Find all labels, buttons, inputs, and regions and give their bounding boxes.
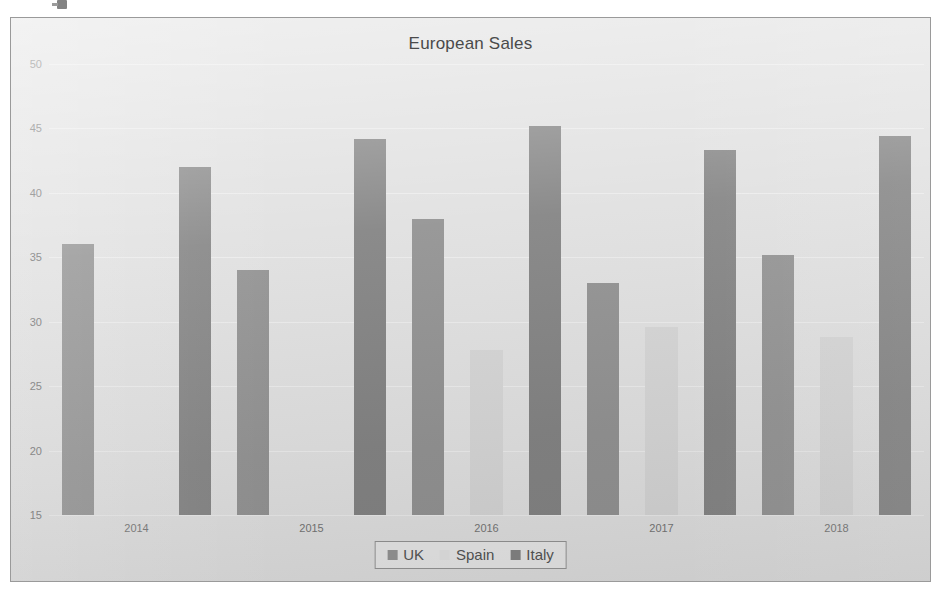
y-axis-tick-label: 35 <box>30 251 42 263</box>
chart-legend: UKSpainItaly <box>374 541 567 569</box>
legend-label: Spain <box>456 546 494 563</box>
chart-frame: European Sales 5045403530252015 20142015… <box>10 17 931 582</box>
y-axis-tick-label: 50 <box>30 58 42 70</box>
legend-item-uk[interactable]: UK <box>387 546 424 563</box>
bar-spain-2018[interactable] <box>820 337 852 515</box>
bar-cluster: 2015 <box>224 64 399 515</box>
bar-cluster: 2016 <box>399 64 574 515</box>
bar-uk-2015[interactable] <box>237 270 269 515</box>
bar-uk-2018[interactable] <box>762 255 794 515</box>
legend-swatch-icon <box>440 550 450 560</box>
bar-cluster: 2014 <box>49 64 224 515</box>
plot-area: 5045403530252015 20142015201620172018 <box>49 64 924 515</box>
scan-artifact <box>57 0 67 9</box>
bar-uk-2014[interactable] <box>62 244 94 515</box>
y-axis-tick-label: 45 <box>30 122 42 134</box>
x-axis-tick-label: 2014 <box>124 522 148 534</box>
legend-label: Italy <box>526 546 554 563</box>
y-axis-tick-label: 20 <box>30 445 42 457</box>
y-axis-tick-label: 25 <box>30 380 42 392</box>
bar-italy-2016[interactable] <box>529 126 561 515</box>
bar-uk-2016[interactable] <box>412 219 444 515</box>
x-axis-tick-label: 2018 <box>824 522 848 534</box>
legend-label: UK <box>403 546 424 563</box>
legend-swatch-icon <box>387 550 397 560</box>
bar-cluster: 2017 <box>574 64 749 515</box>
x-axis-tick-label: 2016 <box>474 522 498 534</box>
bar-italy-2015[interactable] <box>354 139 386 515</box>
legend-item-italy[interactable]: Italy <box>510 546 554 563</box>
legend-item-spain[interactable]: Spain <box>440 546 494 563</box>
gridline <box>49 515 924 516</box>
bar-spain-2017[interactable] <box>645 327 677 515</box>
bars-layer: 20142015201620172018 <box>49 64 924 515</box>
bar-italy-2017[interactable] <box>704 150 736 515</box>
y-axis-tick-label: 15 <box>30 509 42 521</box>
y-axis-tick-label: 40 <box>30 187 42 199</box>
bar-spain-2016[interactable] <box>470 350 502 515</box>
bar-cluster: 2018 <box>749 64 924 515</box>
legend-swatch-icon <box>510 550 520 560</box>
chart-title: European Sales <box>11 34 930 54</box>
bar-uk-2017[interactable] <box>587 283 619 515</box>
bar-italy-2014[interactable] <box>179 167 211 515</box>
x-axis-tick-label: 2015 <box>299 522 323 534</box>
x-axis-tick-label: 2017 <box>649 522 673 534</box>
y-axis-tick-label: 30 <box>30 316 42 328</box>
bar-italy-2018[interactable] <box>879 136 911 515</box>
